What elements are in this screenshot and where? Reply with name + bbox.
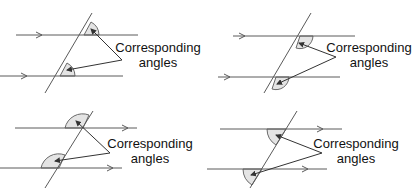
label-line-2: angles — [311, 151, 401, 166]
angle-arc-upper — [84, 22, 99, 35]
label-line-1: Corresponding — [105, 136, 195, 151]
label-bottom-right: Corresponding angles — [311, 136, 401, 166]
label-top-right: Corresponding angles — [324, 40, 413, 70]
transversal-line — [45, 13, 92, 93]
label-top-left: Corresponding angles — [113, 40, 203, 70]
label-line-2: angles — [324, 55, 413, 70]
angle-arc-upper — [296, 36, 313, 49]
label-line-1: Corresponding — [113, 40, 203, 55]
angle-arc-lower — [243, 169, 262, 185]
angle-arc-upper — [65, 114, 89, 128]
angle-arc-upper — [267, 129, 286, 145]
angle-arc-lower — [272, 77, 289, 90]
label-line-1: Corresponding — [311, 136, 401, 151]
label-line-2: angles — [113, 55, 203, 70]
label-bottom-left: Corresponding angles — [105, 136, 195, 166]
label-line-1: Corresponding — [324, 40, 413, 55]
label-line-2: angles — [105, 151, 195, 166]
transversal-line — [250, 111, 297, 188]
